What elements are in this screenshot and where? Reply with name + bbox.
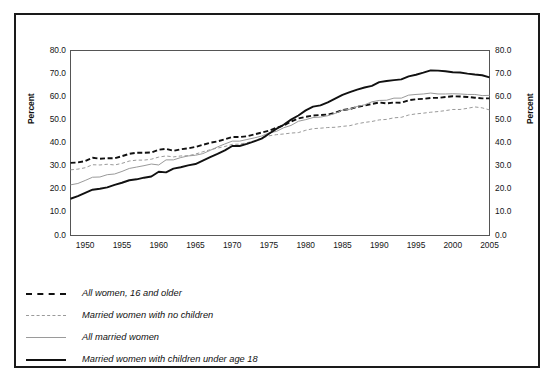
- legend-item[interactable]: All women, 16 and older: [26, 282, 258, 304]
- x-tick-label: 1980: [286, 240, 326, 250]
- x-tick-label: 1970: [212, 240, 252, 250]
- x-tick-label: 1995: [396, 240, 436, 250]
- x-tick-label: 1955: [102, 240, 142, 250]
- y-tick-label-left: 30.0: [36, 160, 66, 170]
- y-tick-label-right: 0.0: [495, 230, 525, 240]
- x-tick-label: 1950: [65, 240, 105, 250]
- y-tick-label-right: 80.0: [495, 45, 525, 55]
- legend-item-label: All women, 16 and older: [82, 288, 182, 298]
- y-tick-label-right: 10.0: [495, 206, 525, 216]
- legend-item[interactable]: Married women with children under age 18: [26, 348, 258, 370]
- chart-legend: All women, 16 and olderMarried women wit…: [26, 282, 258, 370]
- y-tick-label-left: 80.0: [36, 45, 66, 55]
- y-axis-title-left: Percent: [26, 94, 36, 124]
- x-tick-label: 1990: [359, 240, 399, 250]
- x-tick-label: 1960: [139, 240, 179, 250]
- y-tick-label-left: 20.0: [36, 183, 66, 193]
- y-tick-label-right: 30.0: [495, 160, 525, 170]
- y-tick-label-right: 50.0: [495, 114, 525, 124]
- solid-line-icon: [26, 331, 66, 343]
- y-tick-label-left: 60.0: [36, 91, 66, 101]
- y-tick-label-left: 40.0: [36, 137, 66, 147]
- y-tick-label-left: 70.0: [36, 68, 66, 78]
- legend-item[interactable]: Married women with no children: [26, 304, 258, 326]
- x-tick-label: 2005: [470, 240, 510, 250]
- y-tick-label-right: 70.0: [495, 68, 525, 78]
- y-tick-label-right: 40.0: [495, 137, 525, 147]
- legend-item[interactable]: All married women: [26, 326, 258, 348]
- y-tick-label-left: 0.0: [36, 230, 66, 240]
- legend-item-label: Married women with no children: [82, 310, 213, 320]
- y-axis-title-right: Percent: [525, 94, 535, 124]
- y-tick-label-left: 50.0: [36, 114, 66, 124]
- plot-frame: [71, 51, 490, 236]
- chart-figure: Percent Percent 80.070.060.050.040.030.0…: [0, 0, 556, 383]
- x-tick-label: 1975: [249, 240, 289, 250]
- x-tick-label: 1965: [175, 240, 215, 250]
- y-tick-label-left: 10.0: [36, 206, 66, 216]
- dashed-line-icon: [26, 309, 66, 321]
- y-tick-label-right: 60.0: [495, 91, 525, 101]
- y-tick-label-right: 20.0: [495, 183, 525, 193]
- legend-item-label: All married women: [82, 332, 159, 342]
- x-tick-label: 2000: [433, 240, 473, 250]
- dashed-line-icon: [26, 287, 66, 299]
- legend-item-label: Married women with children under age 18: [82, 354, 258, 364]
- x-tick-label: 1985: [322, 240, 362, 250]
- solid-line-icon: [26, 353, 66, 365]
